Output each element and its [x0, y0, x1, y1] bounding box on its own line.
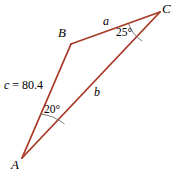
angle-label-a: 20°	[44, 104, 60, 116]
side-label-b: b	[94, 86, 100, 98]
angle-label-c: 25°	[116, 27, 132, 39]
triangle-figure: A B C a b c = 80.4 20° 25°	[0, 0, 176, 177]
side-c-value: = 80.4	[9, 78, 43, 92]
vertex-label-b: B	[58, 26, 66, 39]
vertex-label-a: A	[11, 158, 19, 171]
side-c-line	[22, 44, 71, 158]
vertex-label-c: C	[162, 2, 171, 15]
side-label-a: a	[103, 15, 109, 27]
angle-arc-a	[40, 114, 65, 124]
side-label-c: c = 80.4	[4, 79, 43, 91]
